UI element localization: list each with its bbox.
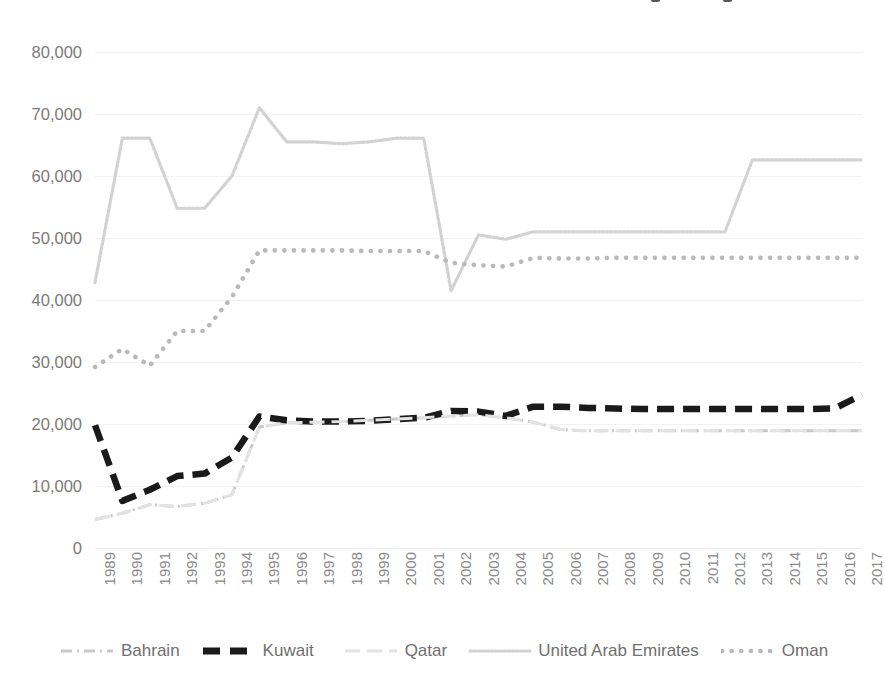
x-axis-tick-label: 2002 xyxy=(457,552,474,585)
round-dot-line-icon xyxy=(721,645,775,657)
x-axis-tick-label: 2011 xyxy=(704,552,721,584)
x-axis-tick-label: 2005 xyxy=(539,552,556,585)
long-dash-line-icon xyxy=(344,645,398,657)
x-axis-tick-label: 1998 xyxy=(348,552,365,585)
x-axis-tick-label: 2007 xyxy=(594,552,611,585)
x-axis-tick-label: 2015 xyxy=(813,552,830,585)
x-axis-labels: 1989199019911992199319941995199619971998… xyxy=(95,552,862,622)
thick-dash-line-icon xyxy=(202,645,256,657)
x-axis-tick-label: 2001 xyxy=(430,552,447,585)
x-axis-tick-label: 1996 xyxy=(293,552,310,585)
legend-label: United Arab Emirates xyxy=(538,641,699,661)
x-axis-tick-label: 1990 xyxy=(128,552,145,585)
legend-item-qatar[interactable]: Qatar xyxy=(344,641,448,661)
x-axis-tick-label: 1989 xyxy=(101,552,118,585)
dash-dot-line-icon xyxy=(60,645,114,657)
x-axis-tick-label: 2008 xyxy=(621,552,638,585)
legend-label: Kuwait xyxy=(263,641,314,661)
legend-item-kuwait[interactable]: Kuwait xyxy=(202,641,314,661)
x-axis-tick-label: 2010 xyxy=(676,552,693,585)
x-axis-tick-label: 2014 xyxy=(786,552,803,585)
x-axis-tick-label: 2009 xyxy=(649,552,666,585)
legend-item-united-arab-emirates[interactable]: United Arab Emirates xyxy=(469,641,699,661)
legend-item-bahrain[interactable]: Bahrain xyxy=(60,641,180,661)
x-axis-tick-label: 2006 xyxy=(567,552,584,585)
x-axis-tick-label: 1992 xyxy=(183,552,200,585)
legend-item-oman[interactable]: Oman xyxy=(721,641,828,661)
x-axis-tick-label: 2000 xyxy=(402,552,419,585)
legend-label: Bahrain xyxy=(121,641,180,661)
fine-dot-line-icon xyxy=(469,645,531,657)
x-axis-tick-label: 1993 xyxy=(211,552,228,585)
legend-label: Oman xyxy=(782,641,828,661)
series-line-united-arab-emirates xyxy=(95,108,862,291)
series-line-bahrain xyxy=(95,415,862,520)
x-axis-tick-label: 1999 xyxy=(375,552,392,585)
x-axis-tick-label: 2012 xyxy=(731,552,748,585)
chart-legend: BahrainKuwaitQatarUnited Arab EmiratesOm… xyxy=(60,636,860,666)
x-axis-tick-label: 1997 xyxy=(320,552,337,585)
x-axis-tick-label: 1995 xyxy=(265,552,282,585)
x-axis-tick-label: 1994 xyxy=(238,552,255,585)
x-axis-tick-label: 2013 xyxy=(758,552,775,585)
series-line-qatar xyxy=(95,415,862,520)
x-axis-tick-label: 2003 xyxy=(485,552,502,585)
x-axis-tick-label: 2016 xyxy=(841,552,858,585)
series-line-kuwait xyxy=(95,395,862,501)
x-axis-tick-label: 2017 xyxy=(868,552,885,585)
x-axis-tick-label: 2004 xyxy=(512,552,529,585)
series-line-oman xyxy=(95,250,862,367)
x-axis-tick-label: 1991 xyxy=(156,552,173,585)
legend-label: Qatar xyxy=(405,641,448,661)
